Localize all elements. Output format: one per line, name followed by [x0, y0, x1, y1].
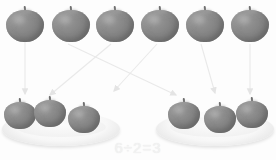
apple-highlight	[10, 106, 20, 114]
apple-body	[96, 10, 134, 42]
apple-highlight	[148, 15, 160, 24]
apple-4	[141, 6, 179, 42]
apple-dimple	[109, 9, 122, 14]
apple-dimple	[45, 99, 56, 103]
apple-dimple	[19, 9, 32, 14]
apple-dimple	[247, 100, 258, 104]
apple-dimple	[199, 9, 212, 14]
right-apple-1	[168, 98, 200, 129]
apple-dimple	[215, 105, 226, 109]
apple-body	[4, 102, 36, 129]
apple-body	[204, 106, 236, 133]
apple-highlight	[40, 104, 50, 112]
apple-highlight	[210, 110, 220, 118]
apple-5	[186, 6, 224, 42]
apple-6	[231, 6, 269, 42]
apple-body	[52, 10, 90, 42]
arrow-apple4-to-left-plate	[114, 44, 157, 91]
apple-highlight	[74, 110, 84, 118]
apple-dimple	[179, 101, 190, 105]
apple-highlight	[103, 15, 115, 24]
apple-body	[168, 102, 200, 129]
apple-highlight	[238, 15, 250, 24]
right-apple-3	[236, 97, 268, 128]
left-apple-1	[4, 98, 36, 129]
apple-1	[6, 6, 44, 42]
right-apple-2	[204, 102, 236, 133]
apple-body	[68, 106, 100, 133]
apple-body	[34, 100, 66, 127]
arrow-apple2-to-right-plate	[68, 44, 176, 95]
arrow-apple3-to-left-plate	[50, 44, 111, 95]
apple-body	[186, 10, 224, 42]
apple-body	[231, 10, 269, 42]
apple-highlight	[59, 15, 71, 24]
apple-highlight	[13, 15, 25, 24]
apple-3	[96, 6, 134, 42]
division-diagram: 6÷2=3	[0, 0, 276, 160]
apple-body	[6, 10, 44, 42]
apple-dimple	[154, 9, 167, 14]
arrow-apple5-to-right-plate	[201, 44, 215, 93]
apple-body	[236, 101, 268, 128]
apple-highlight	[174, 106, 184, 114]
left-apple-2	[34, 96, 66, 127]
apple-dimple	[15, 101, 26, 105]
left-apple-3	[68, 102, 100, 133]
apple-2	[52, 6, 90, 42]
apple-dimple	[79, 105, 90, 109]
arrow-lines	[25, 42, 250, 95]
apple-dimple	[244, 9, 257, 14]
equation-label: 6÷2=3	[0, 139, 276, 156]
apple-highlight	[193, 15, 205, 24]
apple-body	[141, 10, 179, 42]
apple-dimple	[65, 9, 78, 14]
apple-highlight	[242, 105, 252, 113]
